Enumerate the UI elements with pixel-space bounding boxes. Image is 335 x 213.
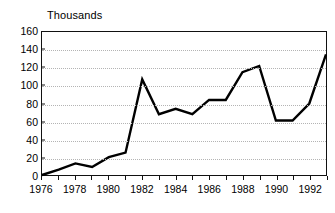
y-axis-tick-label: 60 [12,116,38,127]
x-axis-tick-mark [226,176,227,180]
x-axis-tick-label: 1986 [198,184,221,195]
line-chart: Thousands 020406080100120140160 19761978… [0,0,335,213]
y-axis-tick-label: 100 [12,80,38,91]
x-axis-tick-label: 1990 [265,184,288,195]
x-axis-tick-mark [125,176,126,180]
x-axis-tick-label: 1978 [63,184,86,195]
y-axis-tick-mark [41,85,45,86]
x-axis-tick-mark [176,176,177,180]
x-axis-tick-label: 1988 [231,184,254,195]
x-axis-tick-mark [277,176,278,180]
y-axis-tick-mark [41,139,45,140]
gridline [42,105,326,106]
y-axis-tick-mark [41,67,45,68]
y-axis-tick-mark [41,103,45,104]
y-axis-tick-label: 80 [12,98,38,109]
y-axis-tick-label: 20 [12,153,38,164]
x-axis-tick-label: 1982 [130,184,153,195]
y-axis-tick-label: 160 [12,26,38,37]
gridline [42,141,326,142]
gridline [42,68,326,69]
x-axis-tick-mark [41,176,42,180]
y-axis-tick-label: 140 [12,44,38,55]
x-axis: 197619781980198219841986198819901992 [41,176,327,206]
x-axis-tick-mark [327,176,328,180]
x-axis-tick-mark [108,176,109,180]
series-line [42,54,326,175]
y-axis-tick-mark [41,49,45,50]
x-axis-tick-mark [159,176,160,180]
gridline [42,86,326,87]
y-axis: 020406080100120140160 [9,31,38,176]
x-axis-tick-mark [310,176,311,180]
x-axis-tick-label: 1984 [164,184,187,195]
x-axis-tick-mark [293,176,294,180]
x-axis-tick-mark [192,176,193,180]
y-axis-unit-label: Thousands [47,9,102,21]
plot-area [41,31,327,176]
series-svg [42,32,326,175]
x-axis-tick-mark [75,176,76,180]
x-axis-tick-mark [243,176,244,180]
gridline [42,123,326,124]
x-axis-tick-mark [142,176,143,180]
y-axis-tick-label: 40 [12,135,38,146]
y-axis-tick-mark [41,157,45,158]
y-axis-tick-mark [41,121,45,122]
gridline [42,159,326,160]
x-axis-tick-label: 1980 [97,184,120,195]
x-axis-tick-mark [58,176,59,180]
x-axis-tick-label: 1992 [298,184,321,195]
x-axis-tick-label: 1976 [29,184,52,195]
y-axis-tick-label: 0 [12,171,38,182]
y-axis-tick-label: 120 [12,62,38,73]
x-axis-tick-mark [260,176,261,180]
x-axis-tick-mark [209,176,210,180]
x-axis-tick-mark [91,176,92,180]
gridline [42,50,326,51]
